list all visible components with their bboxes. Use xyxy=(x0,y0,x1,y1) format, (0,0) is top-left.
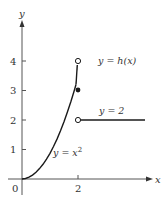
function-label: y = h(x) xyxy=(97,55,137,66)
x-tick-label-2: 2 xyxy=(75,183,81,194)
y-tick-label-1: 1 xyxy=(10,144,16,155)
series-label-y-equals-x-squared: y = x2 xyxy=(52,146,82,158)
y-tick-label-4: 4 xyxy=(10,56,16,67)
x-axis-arrow-icon xyxy=(146,177,153,182)
curve-y-equals-x-squared xyxy=(22,85,76,180)
filled-point-2-3 xyxy=(76,88,81,93)
y-ticks xyxy=(22,61,26,150)
origin-label: 0 xyxy=(12,183,18,194)
y-tick-label-3: 3 xyxy=(10,85,16,96)
open-point-2-2 xyxy=(75,117,80,122)
y-tick-label-2: 2 xyxy=(10,115,16,126)
y-axis-label: y xyxy=(18,8,25,19)
piecewise-function-graph: y x 1 2 3 4 2 0 y = h(x) y = xyxy=(0,0,165,205)
x-axis-label: x xyxy=(155,174,161,185)
chart-canvas: y x 1 2 3 4 2 0 y = h(x) y = xyxy=(0,0,165,205)
y-axis-arrow-icon xyxy=(20,20,25,27)
open-point-2-4 xyxy=(75,58,80,63)
series-label-y-equals-2: y = 2 xyxy=(98,105,124,116)
